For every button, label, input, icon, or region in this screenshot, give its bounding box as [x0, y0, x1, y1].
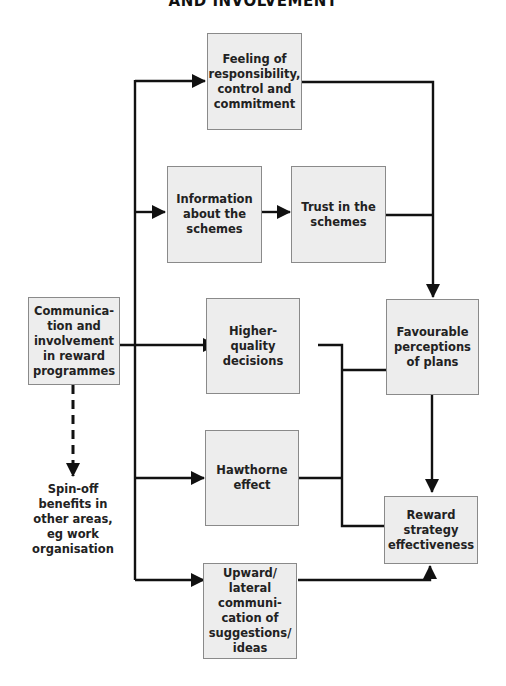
node-label: Favourable perceptions of plans: [390, 325, 475, 370]
node-trust: Trust in the schemes: [291, 166, 386, 263]
node-label: Trust in the schemes: [297, 200, 379, 230]
node-label: Communica- tion and involvement in rewar…: [29, 304, 119, 379]
node-label: Feeling of responsibility, control and c…: [205, 52, 305, 112]
node-upward: Upward/ lateral communi- cation of sugge…: [203, 563, 297, 659]
node-effectiveness: Reward strategy effectiveness: [384, 496, 478, 564]
node-responsibility: Feeling of responsibility, control and c…: [207, 33, 302, 130]
node-label: Higher- quality decisions: [219, 324, 288, 369]
node-source: Communica- tion and involvement in rewar…: [28, 297, 120, 385]
node-label: Reward strategy effectiveness: [384, 508, 478, 553]
edge-upward-effectiveness: [298, 566, 430, 580]
node-label: Information about the schemes: [172, 192, 256, 237]
node-hawthorne: Hawthorne effect: [205, 430, 299, 526]
node-label: Hawthorne effect: [212, 463, 291, 493]
node-label: Upward/ lateral communi- cation of sugge…: [205, 566, 296, 656]
node-information: Information about the schemes: [167, 166, 262, 263]
node-decisions: Higher- quality decisions: [206, 298, 300, 394]
node-spinoff: Spin-off benefits in other areas, eg wor…: [20, 482, 126, 557]
node-perceptions: Favourable perceptions of plans: [386, 299, 479, 395]
